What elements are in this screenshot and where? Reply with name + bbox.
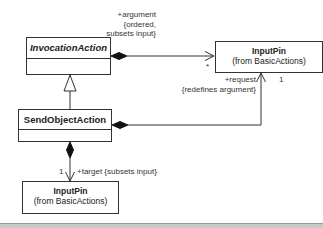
class-input-pin-target[interactable]: InputPin (from BasicActions) — [22, 181, 119, 214]
target-association — [66, 142, 75, 181]
class-input-pin-argument[interactable]: InputPin (from BasicActions) — [215, 41, 323, 73]
composition-diamond-icon — [112, 122, 128, 129]
hollow-triangle-icon — [64, 75, 76, 91]
argument-association — [111, 52, 214, 61]
role-text: +argument — [106, 10, 156, 20]
class-name: InputPin — [23, 186, 118, 196]
class-invocation-action[interactable]: InvocationAction — [26, 37, 111, 75]
request-role-label: +request {redefines argument} — [182, 75, 256, 94]
class-send-object-action[interactable]: SendObjectAction — [18, 109, 112, 142]
request-multiplicity: 1 — [279, 75, 283, 85]
role-text: +request — [182, 75, 256, 85]
generalization-arrow — [64, 75, 76, 109]
target-role-label: +target {subsets input} — [77, 167, 157, 177]
class-name: InputPin — [216, 46, 322, 56]
composition-diamond-icon — [67, 142, 74, 158]
page-bottom-rule — [0, 223, 323, 228]
composition-diamond-icon — [111, 53, 127, 60]
constraint-text: {redefines argument} — [182, 85, 256, 95]
class-name: SendObjectAction — [19, 110, 111, 130]
constraint-text: {ordered, — [106, 20, 156, 30]
package-label: (from BasicActions) — [216, 56, 322, 66]
argument-multiplicity: * — [206, 62, 209, 72]
target-multiplicity: 1 — [59, 167, 63, 177]
constraint-text: subsets input} — [106, 29, 156, 39]
argument-role-label: +argument {ordered, subsets input} — [106, 10, 156, 39]
class-name: InvocationAction — [27, 38, 110, 59]
package-label: (from BasicActions) — [23, 196, 118, 206]
